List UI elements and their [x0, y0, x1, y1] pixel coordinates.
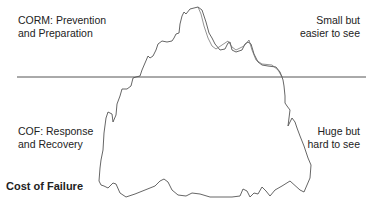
iceberg-outline	[99, 7, 311, 197]
cof-label: COF: Response and Recovery	[18, 125, 93, 151]
small-easy-label: Small but easier to see	[300, 14, 360, 40]
diagram-title: Cost of Failure	[6, 180, 83, 193]
corm-label: CORM: Prevention and Preparation	[18, 14, 106, 40]
huge-hard-label: Huge but hard to see	[307, 125, 360, 151]
